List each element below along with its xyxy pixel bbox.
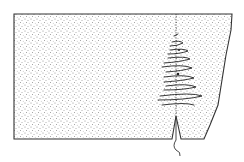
fabric-panel bbox=[14, 14, 232, 139]
sewing-diagram bbox=[0, 0, 244, 162]
illustration-canvas bbox=[0, 0, 244, 162]
